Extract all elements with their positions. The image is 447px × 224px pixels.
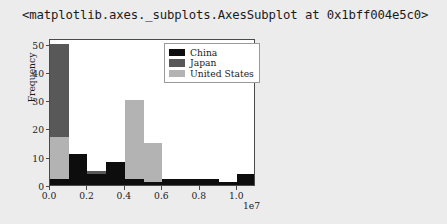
x-tick-mark bbox=[49, 186, 50, 190]
notebook-output-cell: <matplotlib.axes._subplots.AxesSubplot a… bbox=[0, 0, 447, 224]
histogram-bar bbox=[125, 179, 144, 185]
x-tick-mark bbox=[86, 186, 87, 190]
histogram-bar bbox=[144, 182, 163, 185]
y-tick-label: 10 bbox=[14, 152, 44, 163]
histogram-bar bbox=[144, 143, 163, 185]
x-tick-mark bbox=[124, 186, 125, 190]
legend-item: China bbox=[169, 47, 254, 58]
legend-label: Japan bbox=[190, 57, 216, 68]
x-tick-label: 0.4 bbox=[104, 190, 144, 201]
legend-label: China bbox=[190, 47, 217, 58]
legend-swatch-icon bbox=[169, 49, 185, 57]
x-tick-label: 0.6 bbox=[141, 190, 181, 201]
legend-item: Japan bbox=[169, 58, 254, 69]
legend-swatch-icon bbox=[169, 59, 185, 67]
legend-swatch-icon bbox=[169, 70, 185, 78]
legend-label: United States bbox=[190, 68, 254, 79]
x-tick-label: 0.2 bbox=[66, 190, 106, 201]
histogram-bar bbox=[50, 179, 69, 185]
x-tick-label: 0.0 bbox=[29, 190, 69, 201]
axes-repr-text: <matplotlib.axes._subplots.AxesSubplot a… bbox=[22, 8, 428, 22]
x-tick-mark bbox=[161, 186, 162, 190]
x-tick-mark bbox=[236, 186, 237, 190]
y-tick-label: 50 bbox=[14, 39, 44, 50]
y-tick-label: 30 bbox=[14, 96, 44, 107]
x-tick-mark bbox=[199, 186, 200, 190]
histogram-bar bbox=[106, 162, 125, 185]
histogram-bar bbox=[125, 100, 144, 185]
legend-item: United States bbox=[169, 68, 254, 79]
histogram-bar bbox=[181, 179, 200, 185]
histogram-bar bbox=[50, 137, 69, 185]
histogram-bar bbox=[69, 154, 88, 185]
x-tick-label: 0.8 bbox=[179, 190, 219, 201]
chart-legend: ChinaJapanUnited States bbox=[164, 43, 260, 83]
x-axis-exponent-label: 1e7 bbox=[243, 200, 260, 211]
matplotlib-figure: Frequency 01020304050 0.00.20.40.60.81.0… bbox=[8, 28, 289, 218]
y-tick-label: 40 bbox=[14, 67, 44, 78]
histogram-bar bbox=[87, 174, 106, 185]
histogram-bar bbox=[237, 174, 255, 185]
y-tick-label: 20 bbox=[14, 124, 44, 135]
histogram-bar bbox=[219, 182, 238, 185]
histogram-bar bbox=[200, 179, 219, 185]
histogram-bar bbox=[162, 179, 181, 185]
